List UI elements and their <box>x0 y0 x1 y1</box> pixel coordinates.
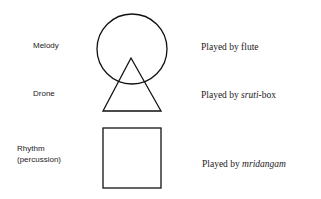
instrument-sruti-box: Played by sruti-box <box>201 90 276 100</box>
instrument-flute: Played by flute <box>201 42 259 52</box>
instrument-mridangam: Played by mridangam <box>202 159 286 169</box>
square-shape <box>103 128 161 188</box>
circle-shape <box>97 14 167 84</box>
music-roles-diagram: Melody Drone Rhythm (percussion) Played … <box>0 0 321 199</box>
